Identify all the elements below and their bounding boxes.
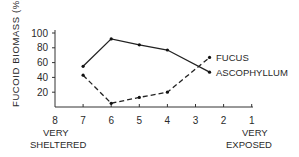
data-point: [110, 37, 113, 40]
x-tick-label: 6: [108, 115, 114, 126]
x-tick-label: 4: [165, 115, 171, 126]
data-point: [166, 91, 169, 94]
data-point: [110, 102, 113, 105]
y-tick-label: 80: [37, 42, 49, 53]
sheltered-label-line2: SHELTERED: [30, 139, 86, 150]
y-tick-label: 20: [37, 87, 49, 98]
y-tick-label: 100: [31, 28, 48, 39]
data-point: [166, 48, 169, 51]
legend-fucus: FUCUS: [216, 52, 249, 63]
chart: FUCOID BIOMASS (%) 10080604020 87654321 …: [0, 0, 299, 157]
data-point: [82, 74, 85, 77]
y-axis-label: FUCOID BIOMASS (%): [10, 0, 21, 107]
series-ascophyllum-line: [83, 39, 210, 72]
x-tick-label: 2: [221, 115, 227, 126]
data-point: [138, 96, 141, 99]
data-point: [208, 56, 211, 59]
x-tick-label: 1: [249, 115, 255, 126]
y-tick-label: 40: [37, 72, 49, 83]
series-fucus-line: [83, 57, 210, 103]
x-tick-label: 5: [137, 115, 143, 126]
series-lines: [82, 37, 212, 105]
x-tick-label: 8: [52, 115, 58, 126]
sheltered-label-line1: VERY: [43, 127, 69, 138]
legend-ascophyllum: ASCOPHYLLUM: [216, 67, 288, 78]
x-tick-label: 7: [80, 115, 86, 126]
data-point: [208, 71, 211, 74]
y-ticks: 10080604020: [31, 28, 55, 98]
y-tick-label: 60: [37, 57, 49, 68]
exposed-label-line2: EXPOSED: [226, 139, 272, 150]
exposed-label-line1: VERY: [242, 127, 268, 138]
data-point: [82, 65, 85, 68]
x-tick-label: 3: [193, 115, 199, 126]
data-point: [138, 43, 141, 46]
